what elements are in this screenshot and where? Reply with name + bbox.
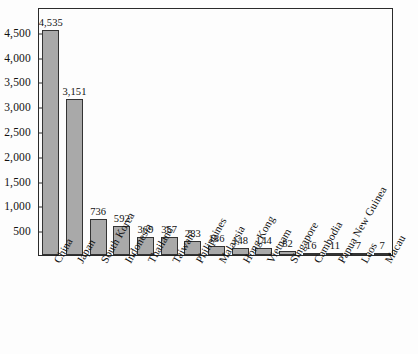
chart-page: 5001,0001,5002,0002,5003,0003,5004,0004,… — [0, 0, 418, 354]
y-tick-label: 500 — [13, 225, 31, 237]
y-tick-label: 4,000 — [4, 52, 31, 64]
bar-rect — [66, 99, 83, 255]
bar-rect — [42, 30, 59, 255]
bar-value-label: 7 — [379, 240, 384, 251]
bar-china[interactable]: 4,535 — [42, 30, 59, 255]
bar-value-label: 3,151 — [62, 86, 86, 97]
y-tick-label: 1,000 — [4, 200, 31, 212]
y-tick-label: 2,500 — [4, 126, 31, 138]
bar-japan[interactable]: 3,151 — [66, 99, 83, 255]
y-tick-label: 2,000 — [4, 151, 31, 163]
bar-value-label: 736 — [90, 206, 106, 217]
y-tick-label: 1,500 — [4, 176, 31, 188]
y-axis: 5001,0001,5002,0002,5003,0003,5004,0004,… — [0, 8, 36, 256]
bar-value-label: 4,535 — [39, 17, 63, 28]
y-tick-label: 3,500 — [4, 76, 31, 88]
y-tick-label: 4,500 — [4, 27, 31, 39]
y-tick-label: 3,000 — [4, 101, 31, 113]
